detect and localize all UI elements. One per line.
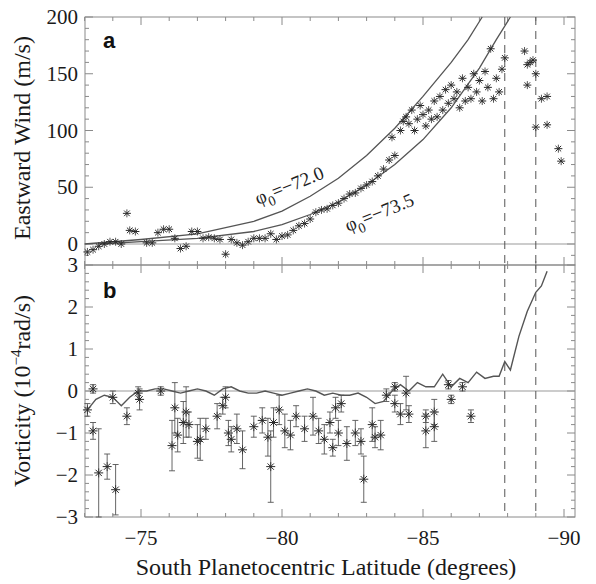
asterisk-marker <box>261 234 269 242</box>
x-tick-label: −75 <box>125 526 158 550</box>
asterisk-marker <box>363 181 371 189</box>
asterisk-marker <box>346 190 354 198</box>
asterisk-marker <box>456 104 464 112</box>
asterisk-marker <box>284 231 292 239</box>
panel-b-y-tick-labels: −3−2−10123 <box>56 253 78 529</box>
asterisk-marker <box>301 220 309 228</box>
asterisk-marker <box>216 235 224 243</box>
asterisk-marker <box>213 412 222 421</box>
asterisk-marker <box>464 83 472 91</box>
asterisk-marker <box>165 225 173 233</box>
asterisk-marker <box>182 242 190 250</box>
asterisk-marker <box>425 106 433 114</box>
asterisk-marker <box>221 393 230 402</box>
asterisk-marker <box>83 405 92 414</box>
y-tick-label: 150 <box>47 62 79 86</box>
asterisk-marker <box>484 83 492 91</box>
asterisk-marker <box>447 395 456 404</box>
asterisk-marker <box>413 115 421 123</box>
asterisk-marker <box>523 81 531 89</box>
asterisk-marker <box>481 67 489 75</box>
asterisk-marker <box>173 431 182 440</box>
asterisk-marker <box>331 403 340 412</box>
asterisk-marker <box>278 232 286 240</box>
model-curve <box>99 17 511 244</box>
asterisk-marker <box>286 431 295 440</box>
asterisk-marker <box>390 382 399 391</box>
asterisk-marker <box>487 45 495 53</box>
panel-b-data-points <box>83 376 476 517</box>
asterisk-marker <box>334 429 343 438</box>
asterisk-marker <box>521 47 529 55</box>
asterisk-marker <box>170 403 179 412</box>
asterisk-marker <box>422 122 430 130</box>
y-tick-label: 200 <box>47 5 79 29</box>
asterisk-marker <box>131 228 139 236</box>
panel-b-model-line <box>87 271 547 410</box>
panel-a-ticks <box>85 17 575 265</box>
asterisk-marker <box>473 88 481 96</box>
asterisk-marker <box>154 229 162 237</box>
asterisk-marker <box>408 106 416 114</box>
asterisk-marker <box>396 127 404 135</box>
asterisk-marker <box>201 424 210 433</box>
asterisk-marker <box>300 424 309 433</box>
asterisk-marker <box>447 81 455 89</box>
asterisk-marker <box>388 133 396 141</box>
asterisk-marker <box>135 395 144 404</box>
asterisk-marker <box>380 165 388 173</box>
panel-a-label: a <box>103 28 116 53</box>
asterisk-marker <box>382 391 391 400</box>
asterisk-marker <box>126 226 134 234</box>
asterisk-marker <box>156 387 165 396</box>
asterisk-marker <box>498 65 506 73</box>
asterisk-marker <box>123 209 131 217</box>
asterisk-marker <box>258 416 267 425</box>
asterisk-marker <box>280 426 289 435</box>
x-tick-label: −85 <box>407 526 440 550</box>
asterisk-marker <box>376 431 385 440</box>
asterisk-marker <box>421 426 430 435</box>
curve-label-72: φ0=−72.0 <box>252 162 329 213</box>
panel-b: b <box>83 265 575 517</box>
asterisk-marker <box>314 426 323 435</box>
asterisk-marker <box>543 121 551 129</box>
asterisk-marker <box>103 462 112 471</box>
panel-b-label: b <box>103 278 116 303</box>
asterisk-marker <box>320 435 329 444</box>
panel-a-dashed-lines <box>505 17 536 265</box>
asterisk-marker <box>342 439 351 448</box>
asterisk-marker <box>340 195 348 203</box>
asterisk-marker <box>433 113 441 121</box>
y-tick-label: 1 <box>68 337 79 361</box>
asterisk-marker <box>404 410 413 419</box>
asterisk-marker <box>227 435 236 444</box>
y-tick-label: 2 <box>68 295 79 319</box>
figure: a φ0=−72.0 φ0=−73.5 b 050100150200 −3−2−… <box>0 0 596 584</box>
asterisk-marker <box>122 412 131 421</box>
x-tick-label: −80 <box>266 526 299 550</box>
y-tick-label: 100 <box>47 119 79 143</box>
asterisk-marker <box>306 215 314 223</box>
asterisk-marker <box>337 399 346 408</box>
asterisk-marker <box>444 99 452 107</box>
asterisk-marker <box>108 393 117 402</box>
panel-a-data-points <box>83 45 565 258</box>
asterisk-marker <box>501 54 509 62</box>
curve-label-73-5: φ0=−73.5 <box>342 189 419 240</box>
asterisk-marker <box>359 475 368 484</box>
asterisk-marker <box>554 145 562 153</box>
asterisk-marker <box>478 97 486 105</box>
asterisk-marker <box>168 441 177 450</box>
asterisk-marker <box>374 172 382 180</box>
asterisk-marker <box>430 97 438 105</box>
asterisk-marker <box>89 384 98 393</box>
asterisk-marker <box>405 120 413 128</box>
asterisk-marker <box>467 95 475 103</box>
asterisk-marker <box>94 468 103 477</box>
asterisk-marker <box>543 92 551 100</box>
asterisk-marker <box>289 226 297 234</box>
asterisk-marker <box>89 246 97 254</box>
asterisk-marker <box>430 422 439 431</box>
asterisk-marker <box>111 485 120 494</box>
